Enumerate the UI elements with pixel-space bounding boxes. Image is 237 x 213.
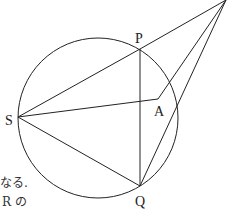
segment-QR	[140, 0, 226, 186]
segment-SQ	[18, 117, 140, 186]
label-P: P	[135, 31, 143, 46]
label-S: S	[5, 113, 13, 128]
segment-PR	[140, 0, 226, 49]
label-Q: Q	[135, 194, 145, 209]
label-A: A	[154, 104, 165, 119]
text-fragment-1: なる.	[0, 177, 28, 189]
text-fragment-2: R の	[2, 196, 27, 208]
segment-SP	[18, 49, 140, 117]
geometry-diagram: P S A Q	[0, 0, 237, 213]
segment-SA	[18, 99, 158, 117]
segment-AR	[158, 0, 226, 99]
